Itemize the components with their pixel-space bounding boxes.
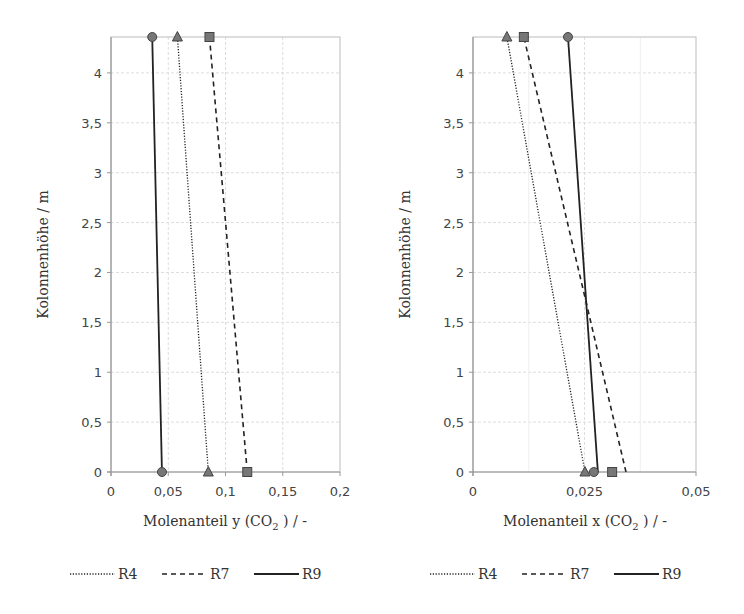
series-r4-line <box>177 37 208 472</box>
legend-label-r4: R4 <box>118 566 138 582</box>
y-tick-label: 4 <box>94 66 102 81</box>
x-axis-title: Molenanteil y (CO2 ) / - <box>143 513 307 532</box>
square-marker <box>608 468 617 477</box>
x-tick-label: 0 <box>469 484 477 499</box>
square-marker <box>205 33 214 42</box>
x-tick-label: 0,15 <box>268 484 297 499</box>
gridlines <box>473 37 696 472</box>
y-tick-label: 0,5 <box>443 415 464 430</box>
circle-marker <box>563 33 572 42</box>
y-tick-label: 2 <box>456 265 464 280</box>
y-tick-label: 1,5 <box>81 315 102 330</box>
triangle-marker <box>172 32 182 42</box>
square-marker <box>243 468 252 477</box>
y-tick-label: 0,5 <box>81 415 102 430</box>
circle-marker <box>157 468 166 477</box>
x-tick-label: 0,1 <box>215 484 236 499</box>
y-tick-label: 0 <box>94 465 102 480</box>
y-tick-label: 3 <box>94 166 102 181</box>
x-tick-label: 0 <box>107 484 115 499</box>
series-r7-line <box>524 37 626 472</box>
legend-label-r4: R4 <box>478 566 498 582</box>
triangle-marker <box>580 467 590 477</box>
square-marker <box>519 33 528 42</box>
chart-canvas: 00,511,522,533,5400,050,10,150,2Kolonnen… <box>0 0 744 614</box>
triangle-marker <box>203 467 213 477</box>
legend-label-r7: R7 <box>570 566 589 582</box>
y-axis-title: Kolonnenhöhe / m <box>35 190 51 318</box>
legend-label-r9: R9 <box>662 566 681 582</box>
y-tick-label: 1 <box>456 365 464 380</box>
y-tick-label: 2 <box>94 265 102 280</box>
circle-marker <box>148 33 157 42</box>
x-tick-label: 0,05 <box>154 484 183 499</box>
y-tick-label: 3 <box>456 166 464 181</box>
y-axis-title: Kolonnenhöhe / m <box>397 190 413 318</box>
circle-marker <box>589 468 598 477</box>
y-tick-label: 4 <box>456 66 464 81</box>
y-tick-label: 1 <box>94 365 102 380</box>
gridlines <box>111 37 340 472</box>
series-r9-line <box>152 37 162 472</box>
y-tick-label: 3,5 <box>443 116 464 131</box>
y-tick-label: 1,5 <box>443 315 464 330</box>
y-tick-label: 0 <box>456 465 464 480</box>
legend-label-r7: R7 <box>210 566 229 582</box>
legend: R4R7R9 <box>70 566 321 582</box>
y-tick-label: 3,5 <box>81 116 102 131</box>
triangle-marker <box>502 32 512 42</box>
x-tick-label: 0,05 <box>682 484 711 499</box>
x-tick-label: 0,025 <box>566 484 603 499</box>
y-tick-label: 2,5 <box>443 216 464 231</box>
legend-label-r9: R9 <box>302 566 321 582</box>
right-chart: 00,511,522,533,5400,0250,05Kolonnenhöhe … <box>397 32 710 583</box>
series-r9-line <box>568 37 598 472</box>
legend: R4R7R9 <box>430 566 681 582</box>
y-tick-label: 2,5 <box>81 216 102 231</box>
series-r7-line <box>209 37 247 472</box>
x-axis-title: Molenanteil x (CO2 ) / - <box>503 513 667 532</box>
x-tick-label: 0,2 <box>330 484 351 499</box>
left-chart: 00,511,522,533,5400,050,10,150,2Kolonnen… <box>35 32 350 583</box>
